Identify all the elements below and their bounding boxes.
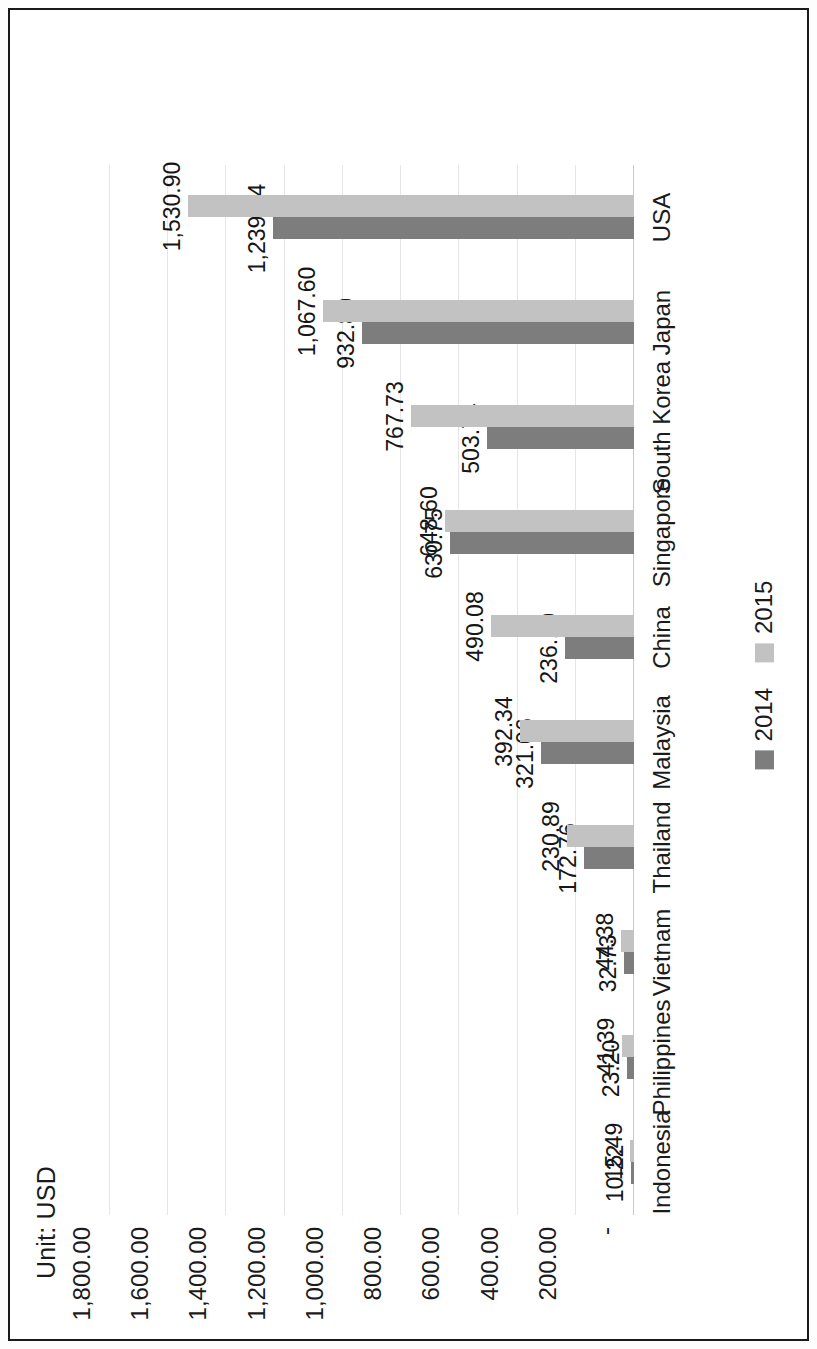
bar-2015[interactable]: 1,530.90 <box>188 195 634 217</box>
legend-swatch-icon <box>754 643 773 662</box>
page-canvas: Unit: USD -200.00400.00600.00800.001,000… <box>0 0 817 1349</box>
bar-2015[interactable]: 230.89 <box>566 825 633 847</box>
category-label: Malaysia <box>648 695 676 790</box>
y-axis-tick-label: 1,800.00 <box>68 1227 96 1320</box>
bar-2015[interactable]: 41.39 <box>621 1035 633 1057</box>
bar-group: 236.10490.08China <box>110 585 634 690</box>
y-axis-tick-label: 1,600.00 <box>126 1227 154 1320</box>
bar-2014[interactable]: 32.73 <box>624 952 634 974</box>
legend-label: 2014 <box>750 688 778 741</box>
bar-group: 503.74767.73South Korea <box>110 375 634 480</box>
bar-2015[interactable]: 490.08 <box>491 615 634 637</box>
bar-value-label: 490.08 <box>464 591 487 661</box>
y-axis-tick-label: 200.00 <box>533 1227 561 1300</box>
bar-2015[interactable]: 767.73 <box>410 405 633 427</box>
category-label: Philippines <box>648 999 676 1115</box>
bar-2014[interactable]: 630.75 <box>450 532 634 554</box>
bar-2014[interactable]: 23.20 <box>627 1057 634 1079</box>
y-axis-tick-label: 1,200.00 <box>242 1227 270 1320</box>
legend-item-2015[interactable]: 2015 <box>750 580 778 661</box>
bar-2014[interactable]: 10.22 <box>631 1162 634 1184</box>
legend-swatch-icon <box>754 750 773 769</box>
category-label: Vietnam <box>648 908 676 996</box>
y-axis-tick-label: 1,400.00 <box>184 1227 212 1320</box>
bar-2014[interactable]: 236.10 <box>565 637 634 659</box>
y-axis-tick-label: 800.00 <box>359 1227 387 1300</box>
bar-2015[interactable]: 1,067.60 <box>323 300 634 322</box>
bar-groups: 10.2215.49Indonesia23.2041.39Philippines… <box>110 165 634 1215</box>
y-axis-tick-label: 600.00 <box>417 1227 445 1300</box>
bar-2014[interactable]: 503.74 <box>487 427 634 449</box>
bar-group: 630.75648.60Singapore <box>110 480 634 585</box>
bar-value-label: 648.60 <box>418 486 441 556</box>
legend-label: 2015 <box>750 580 778 633</box>
bar-2014[interactable]: 932.80 <box>362 322 634 344</box>
bar-group: 321.06392.34Malaysia <box>110 690 634 795</box>
bar-group: 1,239.741,530.90USA <box>110 165 634 270</box>
bar-value-label: 41.39 <box>594 1017 617 1075</box>
plot-area: -200.00400.00600.00800.001,000.001,200.0… <box>110 165 634 1215</box>
legend-item-2014[interactable]: 2014 <box>750 688 778 769</box>
y-axis-tick-label: 400.00 <box>475 1227 503 1300</box>
bar-value-label: 230.89 <box>539 801 562 871</box>
bar-2015[interactable]: 392.34 <box>519 720 633 742</box>
bar-2014[interactable]: 321.06 <box>540 742 633 764</box>
category-label: China <box>648 606 676 669</box>
bar-2014[interactable]: 1,239.74 <box>273 217 634 239</box>
bar-value-label: 44.38 <box>594 912 617 970</box>
rotated-chart-wrapper: Unit: USD -200.00400.00600.00800.001,000… <box>14 15 804 1335</box>
bar-group: 23.2041.39Philippines <box>110 1005 634 1110</box>
bar-value-label: 15.49 <box>602 1122 625 1180</box>
chart-frame: Unit: USD -200.00400.00600.00800.001,000… <box>8 8 809 1341</box>
bar-2015[interactable]: 44.38 <box>621 930 634 952</box>
bar-value-label: 767.73 <box>383 381 406 451</box>
bar-2015[interactable]: 15.49 <box>629 1140 634 1162</box>
bar-group: 32.7344.38Vietnam <box>110 900 634 1005</box>
y-axis-tick-label: 1,000.00 <box>300 1227 328 1320</box>
bar-group: 932.801,067.60Japan <box>110 270 634 375</box>
category-label: USA <box>648 192 676 241</box>
category-label: Japan <box>648 289 676 354</box>
chart-title: Unit: USD <box>32 1166 61 1279</box>
bar-group: 10.2215.49Indonesia <box>110 1110 634 1215</box>
bar-value-label: 1,530.90 <box>161 161 184 251</box>
bar-2015[interactable]: 648.60 <box>445 510 634 532</box>
chart-legend: 20142015 <box>750 580 778 769</box>
y-axis-tick-label: - <box>592 1227 620 1235</box>
category-label: Thailand <box>648 801 676 893</box>
bar-2014[interactable]: 172.76 <box>583 847 633 869</box>
bar-chart: Unit: USD -200.00400.00600.00800.001,000… <box>14 15 804 1335</box>
bar-value-label: 392.34 <box>492 696 515 766</box>
bar-group: 172.76230.89Thailand <box>110 795 634 900</box>
category-label: South Korea <box>648 360 676 493</box>
category-label: Indonesia <box>648 1110 676 1214</box>
bar-value-label: 1,067.60 <box>296 266 319 356</box>
